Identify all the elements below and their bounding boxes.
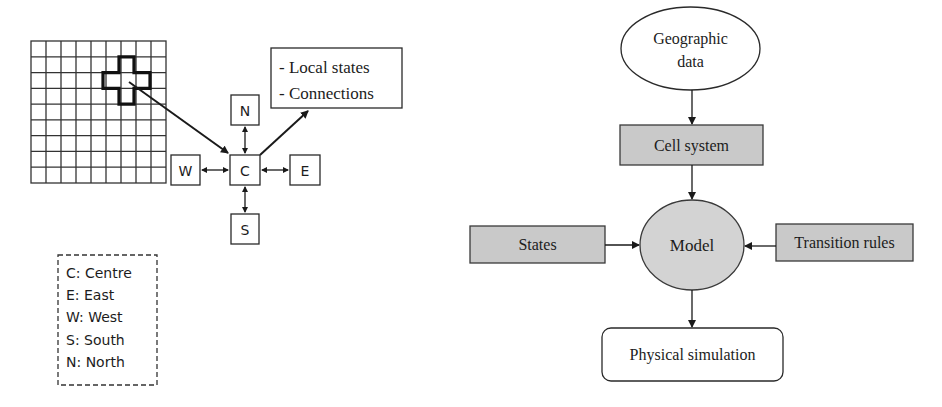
legend-item-east: E: East <box>66 287 115 303</box>
node-east: E <box>290 155 320 185</box>
info-line-local-states: - Local states <box>279 58 370 77</box>
node-physical-simulation: Physical simulation <box>602 328 783 381</box>
node-transition-rules: Transition rules <box>776 224 913 261</box>
info-line-connections: - Connections <box>279 84 374 103</box>
svg-text:Physical simulation: Physical simulation <box>630 346 756 364</box>
node-states: States <box>470 226 605 263</box>
node-north: N <box>231 95 259 125</box>
svg-text:Cell system: Cell system <box>654 137 730 155</box>
node-west: W <box>171 155 200 185</box>
svg-text:Model: Model <box>670 236 715 255</box>
svg-text:data: data <box>677 53 704 70</box>
svg-text:W: W <box>179 163 193 179</box>
svg-text:States: States <box>518 236 556 253</box>
svg-text:N: N <box>240 103 250 119</box>
svg-text:Transition rules: Transition rules <box>794 234 894 251</box>
diagram-canvas: - Local states - Connections N C S E W C… <box>0 0 942 407</box>
info-box: - Local states - Connections <box>271 48 402 108</box>
svg-text:Geographic: Geographic <box>653 30 728 48</box>
legend-item-centre: C: Centre <box>66 265 132 281</box>
node-cell-system: Cell system <box>620 125 763 165</box>
cell-grid <box>31 41 166 183</box>
centre-to-info-arrow <box>260 111 308 155</box>
svg-text:E: E <box>301 163 310 179</box>
node-model: Model <box>640 200 744 290</box>
legend-item-west: W: West <box>66 309 123 325</box>
node-geographic-data: Geographic data <box>621 7 760 90</box>
legend-box: C: Centre E: East W: West S: South N: No… <box>58 255 157 385</box>
svg-text:C: C <box>240 163 250 179</box>
legend-item-south: S: South <box>66 332 125 348</box>
node-centre: C <box>230 155 260 185</box>
svg-text:S: S <box>241 222 250 238</box>
node-south: S <box>231 214 259 244</box>
legend-item-north: N: North <box>66 354 125 370</box>
